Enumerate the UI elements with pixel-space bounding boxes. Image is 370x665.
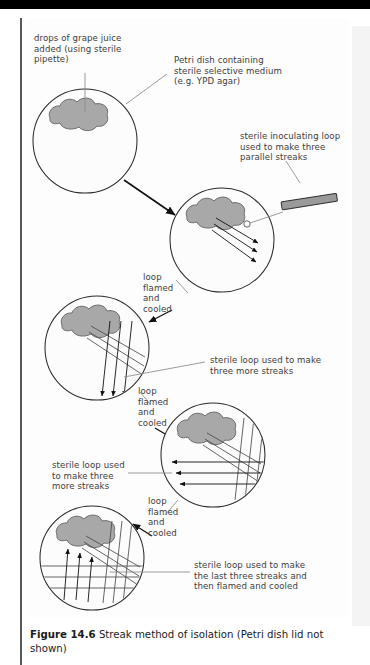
label-flamed-1: loop flamed and cooled [143, 272, 189, 314]
leader-petri-dish [126, 74, 167, 104]
label-petri-dish: Petri dish containing sterile selective … [174, 55, 314, 87]
dish-2 [170, 161, 338, 292]
label-streaks-2: sterile loop used to make three more str… [210, 355, 360, 376]
label-streaks-3: sterile loop used to make three more str… [52, 460, 142, 492]
label-inoculating-loop: sterile inoculating loop used to make th… [240, 131, 365, 163]
figure-page: drops of grape juice added (using steril… [0, 0, 370, 665]
dish-5 [40, 506, 146, 610]
figure-caption: Figure 14.6 Streak method of isolation (… [30, 628, 352, 656]
dish-3 [45, 296, 149, 400]
label-flamed-2: loop flamed and cooled [138, 386, 184, 428]
label-streaks-4: sterile loop used to make the last three… [194, 560, 349, 592]
label-flamed-3: loop flamed and cooled [148, 496, 194, 538]
loop-ring-icon [244, 221, 250, 227]
loop-handle-icon [281, 193, 338, 210]
label-grape-juice: drops of grape juice added (using steril… [34, 33, 154, 65]
leader-inoculating-loop [286, 161, 300, 183]
figure-number: Figure 14.6 [30, 629, 96, 640]
transfer-arrow-1-2 [124, 180, 175, 215]
